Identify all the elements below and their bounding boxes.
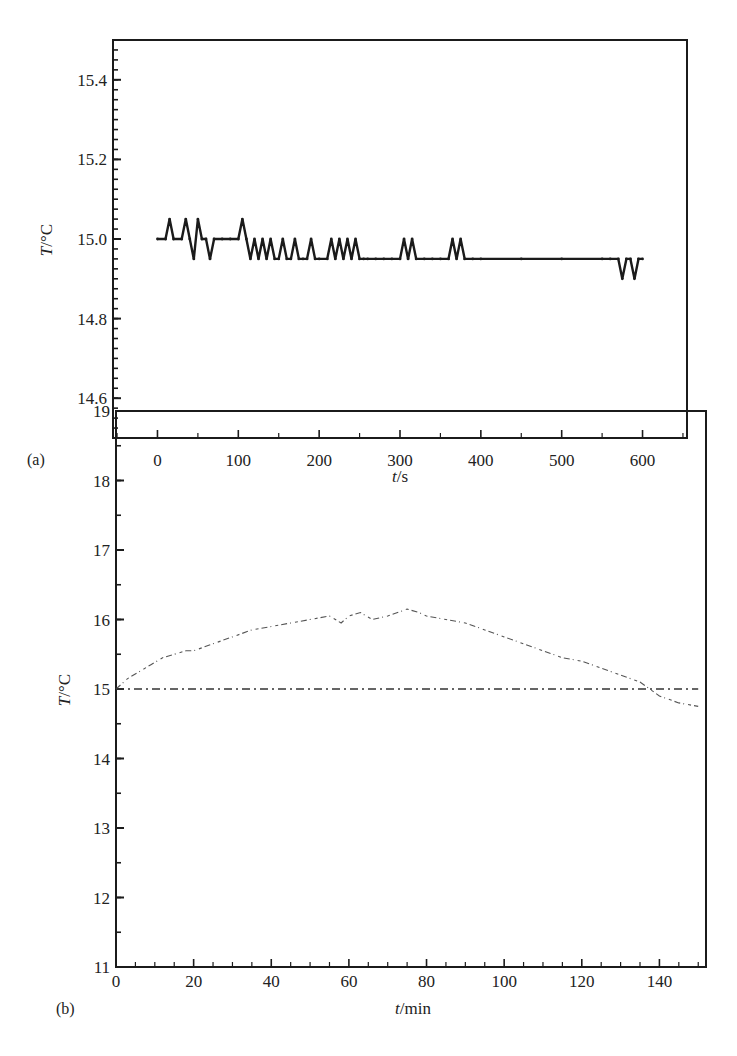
- data-point: [560, 258, 563, 261]
- data-point: [451, 238, 454, 241]
- data-point: [237, 238, 240, 241]
- data-point: [164, 238, 167, 241]
- x-tick-label: 0: [153, 451, 162, 470]
- x-tick-label: 200: [306, 451, 332, 470]
- data-point: [374, 258, 377, 261]
- data-point: [289, 258, 292, 261]
- panel-b-x-axis: 020406080100120140: [112, 959, 698, 991]
- data-point: [609, 258, 612, 261]
- data-point: [621, 277, 624, 280]
- y-tick-label: 12: [93, 889, 110, 908]
- y-tick-label: 15: [93, 680, 110, 699]
- data-point: [318, 258, 321, 261]
- data-point: [221, 238, 224, 241]
- data-point: [265, 258, 268, 261]
- x-tick-label: 500: [549, 451, 575, 470]
- panel-a-y-axis-label: T/°C: [37, 224, 56, 256]
- data-point: [439, 258, 442, 261]
- y-tick-label: 18: [93, 472, 110, 491]
- x-tick-label: 20: [185, 972, 202, 991]
- data-point: [253, 238, 256, 241]
- data-point: [520, 258, 523, 261]
- data-point: [180, 238, 183, 241]
- panel-a-series: [156, 218, 644, 280]
- y-tick-label: 15.0: [77, 230, 107, 249]
- data-point: [601, 258, 604, 261]
- data-point: [285, 258, 288, 261]
- x-tick-label: 400: [468, 451, 494, 470]
- x-tick-label: 140: [647, 972, 673, 991]
- data-point: [298, 258, 301, 261]
- data-point: [459, 238, 462, 241]
- data-point: [633, 277, 636, 280]
- data-point: [350, 258, 353, 261]
- data-point: [302, 258, 305, 261]
- x-tick-label: 0: [112, 972, 121, 991]
- data-point: [362, 258, 365, 261]
- data-point: [306, 258, 309, 261]
- data-point: [310, 238, 313, 241]
- panel-b-chart: 111213141516171819 020406080100120140 T/…: [55, 402, 706, 1018]
- panel-a-plot-frame: [113, 40, 687, 438]
- data-point: [366, 258, 369, 261]
- panel-b-y-axis-label: T/°C: [55, 674, 74, 706]
- data-point: [391, 258, 394, 261]
- data-point: [382, 258, 385, 261]
- data-point: [188, 238, 191, 241]
- panel-a-x-axis-label: t/s: [392, 467, 408, 486]
- x-tick-label: 80: [418, 972, 435, 991]
- data-point: [346, 238, 349, 241]
- data-point: [326, 258, 329, 261]
- data-point: [209, 258, 212, 261]
- data-point: [184, 218, 187, 221]
- data-point: [403, 238, 406, 241]
- data-point: [354, 238, 357, 241]
- data-point: [168, 218, 171, 221]
- data-point: [455, 258, 458, 261]
- data-point: [269, 238, 272, 241]
- data-point: [281, 238, 284, 241]
- data-point: [249, 258, 252, 261]
- data-point: [625, 258, 628, 261]
- data-point: [415, 258, 418, 261]
- y-tick-label: 14: [93, 750, 111, 769]
- data-point: [205, 238, 208, 241]
- panel-a-label: (a): [27, 451, 45, 469]
- y-tick-label: 13: [93, 819, 110, 838]
- y-tick-label: 11: [94, 958, 110, 977]
- figure: 14.614.815.015.215.4 0100200300400500600…: [0, 0, 737, 1056]
- y-tick-label: 16: [93, 611, 110, 630]
- y-tick-label: 14.8: [77, 310, 107, 329]
- data-point: [196, 218, 199, 221]
- data-point: [629, 258, 632, 261]
- data-point: [314, 258, 317, 261]
- data-point: [245, 238, 248, 241]
- data-point: [463, 258, 466, 261]
- data-point: [637, 258, 640, 261]
- data-point: [261, 238, 264, 241]
- x-tick-label: 100: [491, 972, 517, 991]
- data-point: [358, 258, 361, 261]
- data-point: [411, 238, 414, 241]
- data-point: [338, 238, 341, 241]
- y-tick-label: 19: [93, 402, 110, 421]
- y-tick-label: 15.2: [77, 150, 107, 169]
- panel-b-label: (b): [56, 1000, 75, 1018]
- data-point: [399, 258, 402, 261]
- data-point: [241, 218, 244, 221]
- y-tick-label: 15.4: [77, 71, 107, 90]
- panel-a-y-axis: 14.614.815.015.215.4: [77, 40, 121, 438]
- data-point: [447, 258, 450, 261]
- data-point: [257, 258, 260, 261]
- data-point: [277, 258, 280, 261]
- data-point: [273, 258, 276, 261]
- data-point: [617, 258, 620, 261]
- x-tick-label: 100: [226, 451, 252, 470]
- data-point: [201, 238, 204, 241]
- data-point: [407, 258, 410, 261]
- data-point: [479, 258, 482, 261]
- data-point: [229, 238, 232, 241]
- data-point: [431, 258, 434, 261]
- data-point: [192, 258, 195, 261]
- data-point: [641, 258, 644, 261]
